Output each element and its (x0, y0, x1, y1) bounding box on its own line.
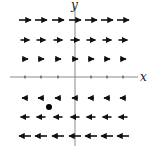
vector-field-plot: x y (0, 0, 151, 146)
x-axis-label: x (140, 70, 147, 84)
axes (10, 6, 138, 146)
y-axis-label: y (70, 0, 78, 12)
marked-point (46, 104, 52, 110)
point-dot (46, 104, 52, 110)
vector-arrows (19, 20, 129, 136)
